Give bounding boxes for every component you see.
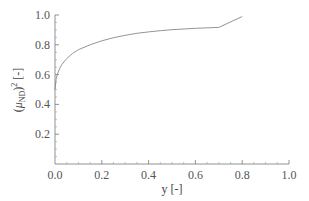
x-axis-label: y [-] <box>162 182 183 196</box>
svg-text:(μND)2 [-]: (μND)2 [-] <box>10 68 27 113</box>
x-tick-label: 0.4 <box>141 168 156 182</box>
x-tick-label: 0.6 <box>188 168 203 182</box>
x-tick-label: 0.0 <box>48 168 63 182</box>
y-axis-label: (μND)2 [-] <box>10 68 27 113</box>
chart-canvas: 1.0 0.8 0.6 0.4 0.2 0.0 0.2 0.4 0.6 0.8 … <box>0 0 309 201</box>
y-tick-label: 0.2 <box>35 127 50 141</box>
y-tick-label: 1.0 <box>35 8 50 22</box>
curve-upper-s1u-s1g <box>55 17 242 90</box>
x-tick-label: 0.8 <box>235 168 250 182</box>
y-tick-label: 0.4 <box>35 97 50 111</box>
y-tick-label: 0.6 <box>35 68 50 82</box>
x-tick-label: 1.0 <box>282 168 297 182</box>
y-tick-label: 0.8 <box>35 38 50 52</box>
x-tick-label: 0.2 <box>94 168 109 182</box>
x-major-ticks <box>102 160 289 164</box>
